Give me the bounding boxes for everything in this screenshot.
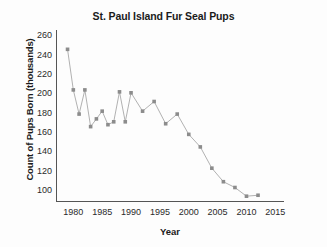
chart-title: St. Paul Island Fur Seal Pups — [0, 10, 327, 22]
data-point — [106, 123, 110, 127]
data-point — [100, 109, 104, 113]
y-axis-tick-label: 160 — [26, 128, 52, 137]
data-point — [83, 88, 87, 92]
data-point — [72, 88, 76, 92]
y-axis-tick-label: 120 — [26, 167, 52, 176]
data-line — [68, 49, 258, 196]
y-axis-tick-label: 100 — [26, 186, 52, 195]
data-point — [245, 194, 249, 198]
data-point-markers — [66, 48, 260, 198]
data-point — [141, 109, 145, 113]
data-point — [123, 120, 127, 124]
data-point — [199, 145, 203, 149]
y-axis-tick-label: 140 — [26, 147, 52, 156]
data-point — [210, 166, 214, 170]
data-point — [152, 100, 156, 104]
data-point — [89, 125, 93, 129]
data-point — [164, 122, 168, 126]
y-axis-tick-label: 200 — [26, 89, 52, 98]
x-axis-tick-label: 2015 — [258, 208, 292, 217]
data-point — [233, 186, 237, 190]
data-point — [175, 112, 179, 116]
plot-area — [56, 30, 284, 202]
data-point — [66, 48, 70, 52]
plot-svg — [56, 30, 284, 202]
y-axis-tick-label: 180 — [26, 109, 52, 118]
x-axis-label: Year — [55, 226, 285, 237]
data-point — [129, 91, 133, 95]
y-axis-tick-label: 220 — [26, 70, 52, 79]
data-point — [187, 133, 191, 137]
axis-lines — [57, 30, 285, 202]
y-axis-tick-label: 260 — [26, 31, 52, 40]
fur-seal-pups-chart: St. Paul Island Fur Seal Pups Count of P… — [0, 0, 327, 247]
data-point — [112, 120, 116, 124]
data-point — [77, 112, 81, 116]
data-point — [222, 180, 226, 184]
y-axis-tick-labels: 100120140160180200220240260 — [22, 30, 52, 202]
data-point — [118, 90, 122, 94]
x-axis-tick-labels: 19801985199019952000200520102015 — [56, 208, 296, 222]
y-axis-tick-label: 240 — [26, 51, 52, 60]
data-point — [256, 193, 260, 197]
data-point — [95, 117, 99, 121]
